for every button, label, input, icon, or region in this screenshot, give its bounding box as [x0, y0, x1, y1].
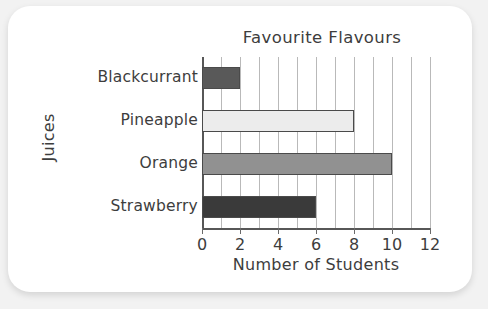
tick-2 [240, 228, 241, 234]
chart-card: Favourite Flavours Juices BlackcurrantPi… [8, 6, 472, 292]
tick-label-4: 4 [258, 235, 298, 254]
tick-0 [202, 228, 203, 234]
bar-orange [202, 153, 392, 175]
tick-label-2: 2 [220, 235, 260, 254]
tick-label-12: 12 [410, 235, 450, 254]
x-axis-ticks [202, 228, 430, 234]
plot-area [202, 57, 430, 228]
bar-pineapple [202, 110, 354, 132]
bar-strawberry [202, 196, 316, 218]
tick-label-8: 8 [334, 235, 374, 254]
tick-label-10: 10 [372, 235, 412, 254]
x-axis-label: Number of Students [182, 255, 450, 274]
category-labels: BlackcurrantPineappleOrangeStrawberry [12, 57, 198, 228]
bar-chart: Favourite Flavours Juices BlackcurrantPi… [8, 6, 472, 292]
x-axis-tick-labels: 024681012 [202, 235, 430, 257]
category-label-strawberry: Strawberry [18, 197, 198, 215]
category-label-pineapple: Pineapple [18, 111, 198, 129]
tick-10 [392, 228, 393, 234]
tick-4 [278, 228, 279, 234]
tick-8 [354, 228, 355, 234]
tick-label-6: 6 [296, 235, 336, 254]
bars-group [202, 57, 430, 228]
gridline-12 [430, 57, 431, 228]
tick-6 [316, 228, 317, 234]
bar-blackcurrant [202, 67, 240, 89]
category-label-blackcurrant: Blackcurrant [18, 68, 198, 86]
category-label-orange: Orange [18, 154, 198, 172]
tick-label-0: 0 [182, 235, 222, 254]
tick-12 [430, 228, 431, 234]
chart-title: Favourite Flavours [202, 28, 442, 47]
